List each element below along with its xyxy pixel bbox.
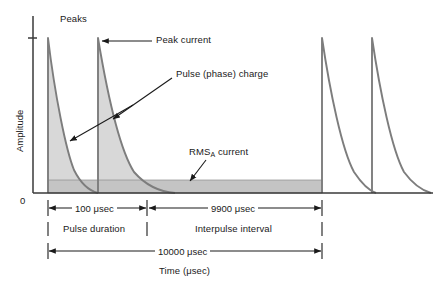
interpulse-interval-label: Interpulse interval — [195, 224, 272, 234]
peak-current-label: Peak current — [156, 35, 211, 45]
rms-current-band — [48, 180, 322, 193]
pulse-curve-3 — [322, 38, 376, 193]
rms-current-prefix: RMS — [189, 146, 210, 157]
rms-current-label: RMSA current — [189, 147, 248, 157]
y-axis-label: Amplitude — [14, 110, 25, 152]
x-axis-label: Time (μsec) — [159, 266, 210, 276]
rms-current-suffix: current — [215, 146, 248, 157]
pulse-charge-leader-main — [113, 78, 172, 119]
pulse-duration-value: 100 μsec — [72, 203, 117, 214]
rms-current-leader — [190, 160, 206, 181]
interpulse-interval-value: 9900 μsec — [208, 203, 258, 214]
figure-canvas: Amplitude 0 Peaks Peak current Pulse (ph… — [0, 0, 433, 285]
rms-current-subscript: A — [210, 151, 215, 158]
total-period-value: 10000 μsec — [155, 246, 210, 257]
y-axis-origin-label: 0 — [20, 196, 25, 206]
peaks-label: Peaks — [60, 14, 87, 24]
pulse-duration-label: Pulse duration — [63, 224, 125, 234]
pulse-train-chart — [0, 0, 433, 285]
pulse-charge-fill-group — [48, 38, 175, 193]
pulse-curve-4 — [372, 38, 431, 193]
pulse-charge-label: Pulse (phase) charge — [176, 69, 268, 79]
pulse-charge-fill-2 — [98, 38, 175, 193]
callout-arrows — [70, 41, 206, 181]
